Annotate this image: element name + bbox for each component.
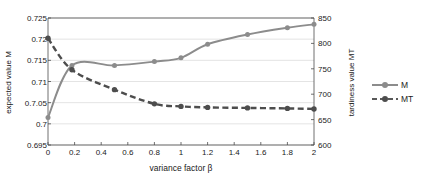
legend-item-mt[interactable]: MT [372, 92, 413, 106]
x-tick-label: 0.8 [149, 148, 160, 157]
x-tick-label: 1.6 [255, 148, 266, 157]
x-tick-label: 0 [46, 148, 50, 157]
x-tick-label: 2 [312, 148, 316, 157]
x-tick-label: 0.6 [122, 148, 133, 157]
x-axis-label: variance factor β [48, 163, 314, 173]
chart-figure: expected value M 0.6950.70.7.050.710.715… [0, 0, 432, 186]
legend-swatch-m-icon [372, 80, 398, 90]
x-tick-label: 1.8 [282, 148, 293, 157]
legend-swatch-mt-icon [372, 94, 398, 104]
x-tick-label: 0.2 [69, 148, 80, 157]
legend-item-m[interactable]: M [372, 78, 413, 92]
legend-label-m: M [401, 80, 408, 90]
x-tick-label: 1 [179, 148, 183, 157]
x-axis-ticks: 00.20.40.60.811.21.41.61.82 [0, 0, 432, 186]
legend-label-mt: MT [401, 94, 413, 104]
x-tick-label: 1.2 [202, 148, 213, 157]
x-tick-label: 0.4 [96, 148, 107, 157]
chart-legend: M MT [372, 78, 413, 106]
x-tick-label: 1.4 [229, 148, 240, 157]
